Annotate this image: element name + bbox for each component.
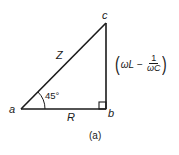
fraction-denominator: ωC: [147, 64, 161, 74]
impedance-label: Z: [56, 50, 63, 61]
inductive-term: ωL: [121, 59, 134, 70]
angle-arc: [38, 92, 45, 109]
angle-label: 45°: [45, 91, 59, 101]
figure-caption: (a): [89, 131, 101, 141]
reactance-expression: ( ωL − 1 ωC ): [114, 54, 168, 74]
vertex-label-a: a: [9, 104, 15, 115]
impedance-triangle-diagram: a b c Z R 45° ( ωL − 1 ωC ) (a): [0, 0, 179, 155]
close-paren: ): [162, 54, 167, 74]
minus-sign: −: [137, 59, 143, 70]
resistance-label: R: [67, 112, 75, 123]
right-angle-marker: [99, 102, 106, 109]
vertex-label-c: c: [102, 10, 108, 21]
side-ac-impedance: [21, 23, 106, 109]
capacitive-fraction: 1 ωC: [147, 54, 161, 74]
vertex-label-b: b: [108, 108, 114, 119]
open-paren: (: [115, 54, 120, 74]
